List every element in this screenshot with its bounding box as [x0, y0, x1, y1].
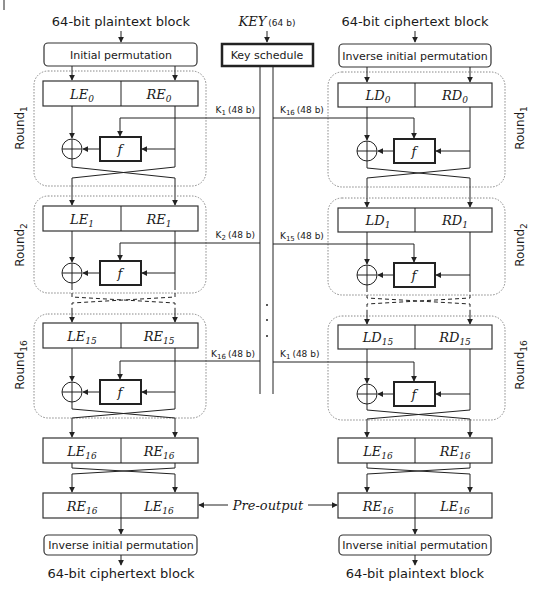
left-round-2: LE1 RE1 f	[34, 196, 260, 310]
right-final-block: LE16 RE16	[338, 438, 492, 492]
svg-text:Inverse initial permutation: Inverse initial permutation	[48, 539, 194, 552]
key-label: KEY(64 b)	[238, 14, 296, 29]
key-label-k1-left: K1(48 b)	[216, 105, 255, 117]
round-2-label-left: Round2	[13, 223, 29, 267]
ellipsis-dot	[266, 319, 268, 321]
right-round-2: LD1 RD1 f	[273, 198, 505, 311]
ellipsis-dot	[266, 304, 268, 306]
key-label-k1-right: K1(48 b)	[280, 349, 319, 361]
ciphertext-input-label: 64-bit ciphertext block	[341, 14, 489, 29]
left-round-16: LE15 RE15 f	[34, 310, 260, 437]
key-label-k15-right: K15(48 b)	[280, 231, 324, 243]
des-diagram: 64-bit plaintext block 64-bit ciphertext…	[0, 0, 538, 590]
ellipsis-dot	[266, 335, 268, 337]
ciphertext-output-label: 64-bit ciphertext block	[47, 566, 195, 581]
left-round-1: LE0 RE0 f	[34, 66, 260, 197]
right-pre-output-block: RE16 LE16	[338, 493, 492, 534]
key-schedule-box: Key schedule	[222, 44, 313, 66]
left-inverse-ip-box: Inverse initial permutation	[44, 535, 197, 565]
key-label-k2-left: K2(48 b)	[216, 230, 255, 242]
plaintext-input-label: 64-bit plaintext block	[52, 14, 191, 29]
round-1-label-right: Round1	[513, 106, 529, 150]
round-16-label-left: Round16	[13, 340, 29, 390]
round-1-label-left: Round1	[13, 106, 29, 150]
svg-text:Initial permutation: Initial permutation	[70, 49, 172, 62]
svg-text:Inverse initial permutation: Inverse initial permutation	[342, 50, 488, 63]
left-pre-output-block: RE16 LE16	[43, 493, 198, 534]
right-round-16: LD15 RD15 f	[273, 311, 505, 437]
round-2-label-right: Round2	[513, 223, 529, 267]
right-round-1: LD0 RD0 f	[273, 67, 505, 198]
round-16-label-right: Round16	[513, 340, 529, 390]
pre-output-label: Pre-output	[232, 498, 304, 513]
left-final-block: LE16 RE16	[43, 438, 198, 492]
right-inverse-ip-box: Inverse initial permutation	[339, 535, 491, 565]
key-label-k16-right: K16(48 b)	[280, 105, 324, 117]
svg-text:Key schedule: Key schedule	[231, 49, 304, 62]
svg-text:Inverse initial permutation: Inverse initial permutation	[342, 539, 488, 552]
plaintext-output-label: 64-bit plaintext block	[346, 566, 485, 581]
key-label-k16-left: K16(48 b)	[211, 349, 255, 361]
inverse-initial-permutation-box-top: Inverse initial permutation	[339, 44, 491, 67]
initial-permutation-box: Initial permutation	[44, 43, 197, 66]
